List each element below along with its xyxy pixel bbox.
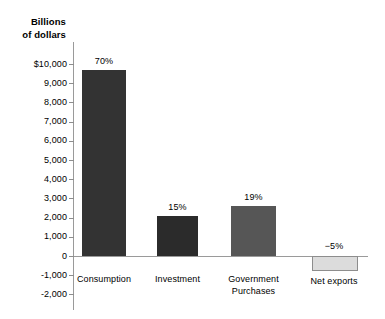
bar-investment	[157, 216, 198, 256]
bar-net-exports	[312, 256, 358, 271]
bar-chart: Billions of dollars $10,0009,0008,0007,0…	[0, 0, 385, 319]
bar-value-label: 70%	[70, 57, 138, 66]
bar-consumption	[82, 70, 126, 256]
bar-value-label: 19%	[219, 193, 288, 202]
bar-value-label: −5%	[300, 242, 368, 251]
plot-area: 70%Consumption15%Investment19%Government…	[0, 0, 385, 319]
category-label-line-1: Net exports	[286, 276, 382, 288]
category-label: Net exports	[286, 276, 382, 288]
bar-government-purchases	[231, 206, 276, 256]
bar-value-label: 15%	[145, 203, 210, 212]
